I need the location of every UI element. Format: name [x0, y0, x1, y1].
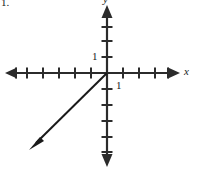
y-axis-top-arrow-icon: [102, 5, 113, 18]
y-axis-unit-tick-label: 1: [92, 51, 98, 62]
coordinate-plane-figure: 1. y x 1 1: [0, 0, 199, 170]
coordinate-axes-graphic: [0, 0, 199, 170]
y-axis-bottom-arrow-icon: [102, 154, 113, 167]
plotted-ray-arrow-icon: [29, 137, 44, 150]
x-axis-label: x: [184, 66, 189, 77]
x-axis-unit-tick-label: 1: [116, 80, 122, 91]
x-axis-right-arrow-icon: [168, 68, 180, 79]
y-axis-label: y: [103, 0, 108, 5]
plotted-ray-segment: [36, 73, 107, 143]
problem-number-label: 1.: [1, 0, 9, 8]
